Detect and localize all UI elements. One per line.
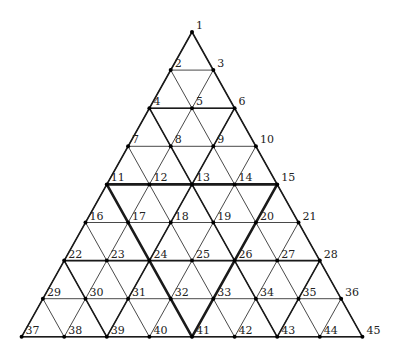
node-dot	[318, 335, 322, 339]
node-dot	[254, 144, 258, 148]
node-label: 40	[153, 324, 167, 337]
node-label: 4	[153, 95, 160, 108]
grid-edge	[171, 223, 192, 261]
node-label: 2	[175, 57, 182, 70]
node-dot	[147, 106, 151, 110]
node-dot	[297, 297, 301, 301]
node-dot	[275, 335, 279, 339]
node-label: 41	[196, 324, 210, 337]
node-dot	[147, 259, 151, 263]
node-dot	[254, 297, 258, 301]
node-dot	[211, 144, 215, 148]
node-label: 28	[324, 248, 338, 261]
node-label: 42	[239, 324, 253, 337]
node-dot	[360, 335, 364, 339]
node-dot	[211, 297, 215, 301]
triangular-grid-diagram: 1234567891011121314151617181920212223242…	[0, 0, 399, 361]
grid-edge	[43, 299, 64, 337]
node-dot	[169, 297, 173, 301]
node-label: 1	[196, 19, 203, 32]
node-dot	[105, 335, 109, 339]
node-label: 14	[239, 171, 253, 184]
node-dot	[211, 68, 215, 72]
node-dot	[297, 221, 301, 225]
grid-edge	[149, 184, 170, 222]
node-label: 12	[153, 171, 167, 184]
node-dot	[254, 221, 258, 225]
node-dot	[275, 259, 279, 263]
node-dot	[169, 144, 173, 148]
node-label: 25	[196, 248, 210, 261]
node-label: 38	[68, 324, 82, 337]
node-label: 17	[132, 210, 146, 223]
node-dot	[147, 182, 151, 186]
node-dot	[126, 221, 130, 225]
node-label: 6	[239, 95, 246, 108]
node-label: 35	[303, 286, 317, 299]
node-dot	[62, 259, 66, 263]
grid-edge	[171, 70, 192, 108]
node-dot	[190, 259, 194, 263]
node-dot	[84, 297, 88, 301]
grid-edge	[192, 108, 213, 146]
node-dot	[190, 30, 194, 34]
node-label: 27	[281, 248, 295, 261]
node-label: 29	[47, 286, 61, 299]
node-label: 13	[196, 171, 210, 184]
grid-edge	[213, 299, 234, 337]
node-label: 21	[303, 210, 317, 223]
node-label: 39	[111, 324, 125, 337]
node-label: 3	[217, 57, 224, 70]
node-label: 43	[281, 324, 295, 337]
node-label: 45	[366, 324, 380, 337]
node-label: 15	[281, 171, 295, 184]
node-dot	[190, 106, 194, 110]
grid-edge	[128, 299, 149, 337]
node-dot	[62, 335, 66, 339]
node-dot	[275, 182, 279, 186]
node-dot	[126, 144, 130, 148]
node-label: 19	[217, 210, 231, 223]
node-dot	[233, 335, 237, 339]
grid-edge	[192, 261, 213, 299]
node-label: 34	[260, 286, 274, 299]
node-labels: 1234567891011121314151617181920212223242…	[26, 19, 381, 337]
grid-edge	[277, 261, 298, 299]
node-label: 31	[132, 286, 146, 299]
node-label: 44	[324, 324, 338, 337]
node-dot	[105, 182, 109, 186]
node-label: 11	[111, 171, 125, 184]
grid-edge	[128, 146, 149, 184]
node-label: 24	[153, 248, 167, 261]
node-dot	[41, 297, 45, 301]
node-dot	[339, 297, 343, 301]
node-label: 18	[175, 210, 189, 223]
node-label: 16	[90, 210, 104, 223]
node-dot	[211, 221, 215, 225]
node-label: 7	[132, 133, 139, 146]
grid-edge	[107, 261, 128, 299]
node-label: 5	[196, 95, 203, 108]
grid-edge	[256, 223, 277, 261]
grid-edge	[235, 184, 256, 222]
grid-edge	[213, 146, 234, 184]
node-label: 30	[90, 286, 104, 299]
node-dot	[233, 259, 237, 263]
node-label: 37	[26, 324, 40, 337]
node-label: 20	[260, 210, 274, 223]
node-label: 23	[111, 248, 125, 261]
node-dot	[233, 182, 237, 186]
node-label: 10	[260, 133, 274, 146]
node-dot	[169, 68, 173, 72]
grid-edge	[86, 223, 107, 261]
grid-edge	[299, 299, 320, 337]
node-dot	[169, 221, 173, 225]
node-label: 8	[175, 133, 182, 146]
node-label: 32	[175, 286, 189, 299]
node-dot	[126, 297, 130, 301]
node-label: 9	[217, 133, 224, 146]
node-label: 26	[239, 248, 253, 261]
node-dot	[20, 335, 24, 339]
node-label: 33	[217, 286, 231, 299]
node-label: 22	[68, 248, 82, 261]
